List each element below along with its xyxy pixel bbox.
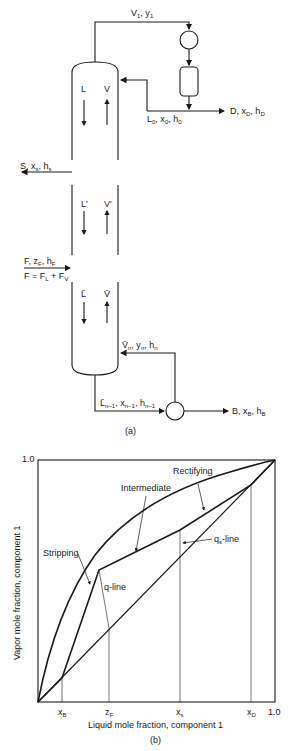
y-axis-label: Vapor mole fraction, component 1 bbox=[12, 526, 22, 660]
column-top-cap bbox=[72, 62, 118, 160]
column-schematic bbox=[0, 0, 293, 430]
x-tick-xs: xs bbox=[176, 707, 184, 720]
rect-liquid-label: L bbox=[81, 84, 86, 94]
reboiler bbox=[166, 402, 184, 420]
strip-vapor-label: V̄ bbox=[104, 289, 110, 299]
strip-liquid-label: L̄ bbox=[81, 289, 86, 299]
diagonal bbox=[38, 460, 275, 702]
q-line bbox=[99, 570, 109, 628]
bottom-liquid-label: L̄n−1, xn−1, hn−1 bbox=[100, 398, 155, 411]
feed-split-label: F = FL + FV bbox=[24, 271, 68, 284]
boilup-label: V̄n, yn, hn bbox=[122, 340, 158, 353]
x-tick-xB: xB bbox=[58, 707, 67, 720]
y-tick-1: 1.0 bbox=[22, 454, 35, 464]
q-line-annotation: q-line bbox=[104, 582, 126, 592]
bottoms-label: B, xB, hB bbox=[232, 406, 266, 419]
rect-vapor-label: V bbox=[104, 84, 110, 94]
x-tick-xD: xD bbox=[247, 707, 256, 720]
x-tick-zF: zF bbox=[105, 707, 113, 720]
boilup-line bbox=[121, 353, 175, 402]
condenser bbox=[180, 31, 198, 49]
caption-a: (a) bbox=[125, 426, 136, 436]
column-bottom bbox=[72, 282, 118, 375]
qs-line-annotation: qs-line bbox=[214, 534, 239, 547]
x-axis-label: Liquid mole fraction, component 1 bbox=[88, 720, 223, 730]
reflux-line bbox=[121, 80, 147, 111]
plot-frame bbox=[38, 460, 275, 702]
inter-liquid-label: L' bbox=[81, 199, 88, 209]
sidestream-label: S, xs, hs bbox=[20, 161, 52, 174]
overhead-vapor-line bbox=[95, 22, 189, 62]
top-vapor-label: V1, y1 bbox=[131, 8, 153, 21]
caption-b: (b) bbox=[150, 735, 161, 745]
column-middle bbox=[72, 185, 118, 255]
intermediate-annotation: Intermediate bbox=[121, 483, 171, 493]
reflux-drum bbox=[180, 67, 198, 96]
equilibrium-curve bbox=[38, 460, 275, 702]
distillate-label: D, xD, hD bbox=[230, 106, 265, 119]
x-tick-1: 1.0 bbox=[268, 707, 281, 717]
rectifying-annotation: Rectifying bbox=[173, 466, 213, 476]
inter-vapor-label: V' bbox=[104, 199, 112, 209]
feed-label: F, zF, hF bbox=[24, 256, 55, 269]
reflux-label: L0, x0, h0 bbox=[147, 114, 182, 127]
stripping-annotation: Stripping bbox=[43, 548, 79, 558]
